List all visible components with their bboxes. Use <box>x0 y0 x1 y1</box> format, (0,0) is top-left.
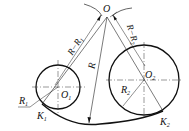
line-o-to-arc-r <box>89 17 107 123</box>
label-k1: K1 <box>36 110 47 122</box>
label-r-minus-r2: R−R2 <box>124 22 141 45</box>
construction-arc-right <box>112 8 132 16</box>
r1-radius-line <box>38 87 58 101</box>
arrowhead-r <box>88 117 92 123</box>
label-r1: R1 <box>18 95 28 107</box>
label-r: R <box>85 62 97 71</box>
dim-line-r-minus-r2 <box>113 15 145 66</box>
arrowhead-r-minus-r2 <box>113 15 117 21</box>
tangent-arc-r <box>42 104 163 125</box>
label-o: O <box>103 3 110 14</box>
line-o-to-k1 <box>42 17 107 104</box>
label-o2: O2 <box>145 69 155 81</box>
label-r2: R2 <box>120 84 130 96</box>
label-r-minus-r1: R−R1 <box>65 35 85 59</box>
construction-arc-left <box>84 4 102 16</box>
label-o1: O1 <box>61 89 71 101</box>
label-k2: K2 <box>159 116 170 128</box>
tangent-arc-diagram: O O1 O2 R R1 R2 K1 K2 R−R1 R−R2 <box>0 0 189 131</box>
